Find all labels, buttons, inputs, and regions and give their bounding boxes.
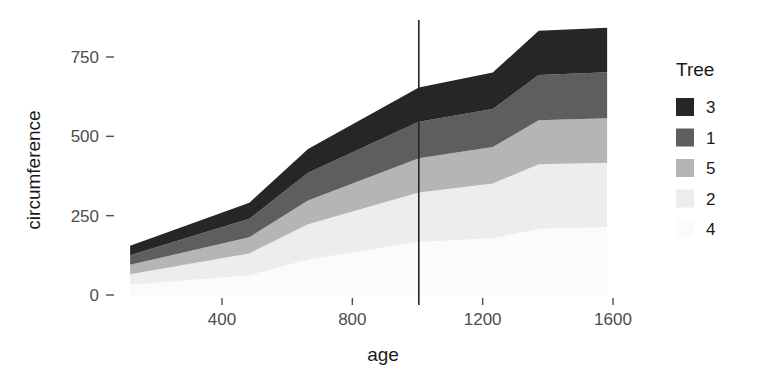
- legend-label-3: 3: [706, 98, 715, 117]
- y-axis: 0250500750: [71, 48, 114, 305]
- legend-swatch-3[interactable]: [676, 98, 694, 116]
- y-tick-label: 0: [90, 286, 99, 305]
- legend-swatch-4[interactable]: [676, 220, 694, 238]
- x-tick-label: 800: [338, 310, 366, 329]
- plot-canvas: 40080012001600 0250500750 age circumfere…: [0, 0, 772, 375]
- y-tick-label: 250: [71, 207, 99, 226]
- chart-figure: 40080012001600 0250500750 age circumfere…: [0, 0, 772, 375]
- legend-label-4: 4: [706, 220, 715, 239]
- legend-label-2: 2: [706, 190, 715, 209]
- legend-swatch-5[interactable]: [676, 159, 694, 177]
- legend-label-1: 1: [706, 129, 715, 148]
- stacked-areas: [130, 28, 607, 295]
- y-tick-label: 500: [71, 127, 99, 146]
- x-tick-label: 1200: [464, 310, 502, 329]
- y-tick-label: 750: [71, 48, 99, 67]
- legend: Tree 31524: [676, 59, 715, 239]
- x-axis: 40080012001600: [208, 298, 632, 329]
- x-tick-label: 400: [208, 310, 236, 329]
- x-axis-title: age: [367, 344, 399, 365]
- legend-title: Tree: [676, 59, 714, 80]
- x-tick-label: 1600: [594, 310, 632, 329]
- y-axis-title: circumference: [23, 110, 44, 229]
- legend-label-5: 5: [706, 159, 715, 178]
- legend-swatch-2[interactable]: [676, 190, 694, 208]
- legend-swatch-1[interactable]: [676, 129, 694, 147]
- legend-entries: 31524: [676, 98, 715, 239]
